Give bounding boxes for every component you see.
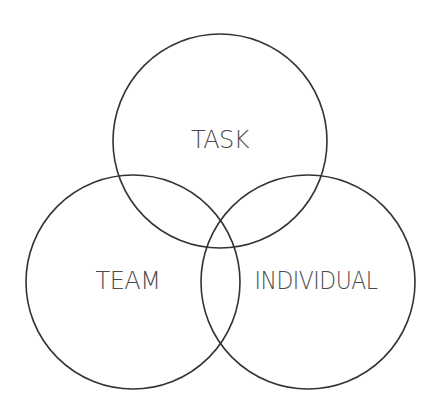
venn-diagram: TASK TEAM INDIVIDUAL (0, 0, 438, 417)
task-label: TASK (191, 126, 250, 154)
team-label: TEAM (96, 267, 161, 295)
individual-label: INDIVIDUAL (255, 267, 378, 295)
